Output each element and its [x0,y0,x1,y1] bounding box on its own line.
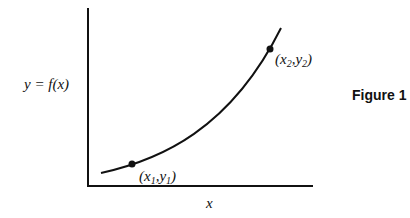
point-2-marker [267,46,274,53]
figure-caption: Figure 1 [352,87,407,103]
x-axis-label: x [205,195,213,211]
figure-diagram: (x1,y1) (x2,y2) y = f(x) x Figure 1 [0,0,410,218]
y-axis-label: y = f(x) [22,76,69,93]
point-1-marker [129,161,136,168]
point-2-label: (x2,y2) [275,51,312,69]
point-1-label: (x1,y1) [139,168,176,186]
function-curve [101,28,281,173]
